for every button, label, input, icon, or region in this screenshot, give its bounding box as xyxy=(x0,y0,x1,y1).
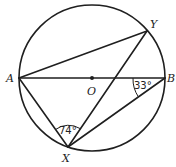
label-x: X xyxy=(61,152,71,165)
label-b: B xyxy=(166,72,175,85)
label-a: A xyxy=(5,72,14,85)
segment-ax xyxy=(19,78,68,147)
segment-ay xyxy=(19,31,147,78)
center-point-o xyxy=(90,76,94,80)
angle-label-74: 74° xyxy=(59,125,77,136)
label-o: O xyxy=(87,85,96,98)
circle-geometry-diagram: A B O Y X 74° 33° xyxy=(0,0,176,167)
label-y: Y xyxy=(150,18,159,31)
angle-label-33: 33° xyxy=(134,80,152,91)
